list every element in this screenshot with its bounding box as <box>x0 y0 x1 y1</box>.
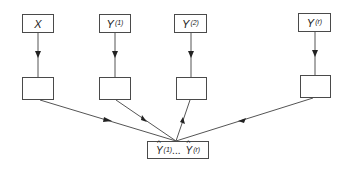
edge-box2-to-output <box>116 100 176 141</box>
arrowhead-icon <box>312 50 318 57</box>
output-box: Y(1)...Y(r) <box>147 141 209 159</box>
output-last-sup: (r) <box>193 146 200 153</box>
output-ellipsis: ... <box>172 145 180 156</box>
arrowhead-icon <box>238 118 246 123</box>
intermediate-box-1 <box>22 77 54 100</box>
intermediate-box-4 <box>300 75 331 98</box>
input-label-yr: Y <box>307 17 314 29</box>
input-label-x: X <box>34 18 41 30</box>
input-box-y1: Y(1) <box>99 14 131 33</box>
arrowhead-icon <box>35 51 41 58</box>
arrowhead-icon <box>188 51 194 58</box>
input-label-y1: Y <box>107 18 114 30</box>
input-sup-yr: (r) <box>315 18 322 25</box>
intermediate-box-3 <box>176 77 207 100</box>
output-first-sup: (1) <box>164 146 173 153</box>
input-box-x: X <box>22 14 54 33</box>
input-sup-y2: (2) <box>190 19 199 26</box>
intermediate-box-2 <box>99 77 131 100</box>
output-last-base: Y <box>185 145 192 156</box>
input-box-yr: Y(r) <box>298 13 331 32</box>
arrowhead-icon <box>141 115 147 122</box>
output-first-base: Y <box>156 145 163 156</box>
input-box-y2: Y(2) <box>174 14 207 33</box>
arrowhead-icon <box>112 51 118 58</box>
input-label-y2: Y <box>182 18 189 30</box>
input-sup-y1: (1) <box>115 19 124 26</box>
